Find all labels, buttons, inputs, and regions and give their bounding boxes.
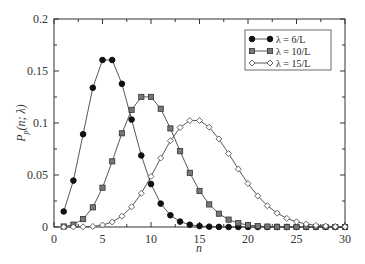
- svg-text:λ = 15/L: λ = 15/L: [276, 58, 310, 69]
- y-tick-label: 0.05: [27, 168, 48, 182]
- x-tick-label: 0: [51, 232, 57, 246]
- x-tick-label: 25: [291, 232, 303, 246]
- series-2: [61, 94, 348, 229]
- x-tick-label: 30: [339, 232, 351, 246]
- y-tick-label: 0.2: [33, 12, 48, 26]
- x-tick-label: 20: [242, 232, 254, 246]
- poisson-chart: 05101520253000.050.10.150.2 n Pp(n; λ) λ…: [0, 0, 365, 264]
- legend: λ = 6/Lλ = 10/Lλ = 15/L: [245, 30, 331, 70]
- x-axis-label: n: [196, 241, 202, 255]
- series-1: [61, 57, 348, 230]
- x-tick-label: 5: [100, 232, 106, 246]
- series-group: [61, 57, 348, 230]
- y-tick-label: 0.1: [33, 116, 48, 130]
- x-tick-label: 10: [145, 232, 157, 246]
- series-3: [61, 118, 348, 230]
- svg-text:λ = 6/L: λ = 6/L: [276, 34, 305, 45]
- y-tick-label: 0.15: [27, 64, 48, 78]
- y-axis-label: Pp(n; λ): [14, 104, 30, 143]
- svg-text:λ = 10/L: λ = 10/L: [276, 46, 310, 57]
- y-tick-label: 0: [42, 220, 48, 234]
- svg-text:Pp(n; λ): Pp(n; λ): [14, 104, 30, 143]
